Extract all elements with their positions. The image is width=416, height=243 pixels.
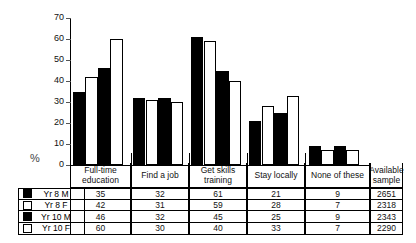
chart-figure: % 706050403020100 Yr 8 MYr 8 FYr 10 MYr …: [0, 0, 416, 243]
table-header-none-of-these: None of these: [305, 163, 370, 188]
bar-yr-10-m-2: [216, 71, 229, 166]
header-line: sample: [373, 175, 400, 185]
y-tick-mark: [66, 123, 71, 124]
y-tick-label: 70: [36, 13, 64, 22]
y-tick-label-text: 30: [38, 97, 64, 106]
bar-yr-8-f-2: [204, 41, 217, 165]
y-tick-label-text: 20: [38, 118, 64, 127]
y-tick-label: 40: [36, 76, 64, 85]
table-cell: 2343: [370, 211, 403, 223]
table-cell: 35: [70, 188, 131, 200]
y-tick-mark: [66, 39, 71, 40]
header-line: None of these: [311, 170, 364, 180]
data-table: Yr 8 MYr 8 FYr 10 MYr 10 F Full-timeeduc…: [18, 163, 403, 235]
table-cell: 46: [70, 211, 131, 223]
bar-yr-10-f-3: [287, 96, 300, 165]
table-header-stay-locally: Stay locally: [247, 163, 305, 188]
bar-yr-10-m-1: [158, 98, 171, 165]
bar-yr-10-f-1: [171, 102, 184, 165]
table-cell: 32: [131, 211, 189, 223]
table-header-find-a-job: Find a job: [131, 163, 189, 188]
bar-yr-10-f-2: [229, 81, 242, 165]
bar-yr-8-f-3: [262, 106, 275, 165]
table-cell: 9: [305, 188, 370, 200]
table-cell: 32: [131, 188, 189, 200]
y-tick-label: 60: [36, 34, 64, 43]
y-tick-label-text: 40: [38, 76, 64, 85]
legend-swatch-black: [23, 212, 32, 221]
table-header-full-time-education: Full-timeeducation: [70, 163, 131, 188]
header-line: training: [204, 175, 232, 185]
bar-yr-8-f-0: [85, 77, 98, 165]
table-cell: 28: [247, 200, 305, 212]
table-cell: 59: [189, 200, 247, 212]
header-line: Full-time: [84, 165, 117, 175]
y-tick-mark: [66, 18, 71, 19]
bar-yr-8-f-1: [146, 100, 159, 165]
y-tick-label: 50: [36, 55, 64, 64]
bar-yr-8-m-3: [249, 121, 262, 165]
y-tick-label-text: 50: [38, 55, 64, 64]
table-cell: 42: [70, 200, 131, 212]
y-tick-mark: [66, 81, 71, 82]
header-line: Stay locally: [255, 170, 298, 180]
table-cell: 7: [305, 200, 370, 212]
bar-yr-8-m-0: [73, 92, 86, 166]
table-cell: 2290: [370, 223, 403, 235]
bar-yr-8-m-2: [191, 37, 204, 165]
y-tick-mark: [66, 102, 71, 103]
table-header-available-sample: Availablesample: [370, 163, 403, 188]
table-cell: 33: [247, 223, 305, 235]
bar-yr-8-m-1: [133, 98, 146, 165]
plot-area: % 706050403020100: [0, 0, 416, 167]
y-tick-label-text: 70: [38, 13, 64, 22]
legend-swatch-black: [23, 189, 32, 198]
header-line: Find a job: [141, 170, 178, 180]
table-cell: 61: [189, 188, 247, 200]
table-cell: 9: [305, 211, 370, 223]
table-cell: 60: [70, 223, 131, 235]
table-header-get-skills-training: Get skillstraining: [189, 163, 247, 188]
y-tick-label-text: 60: [38, 34, 64, 43]
table-cell: 2318: [370, 200, 403, 212]
legend-swatch-white: [23, 224, 32, 233]
bar-yr-10-f-0: [110, 39, 123, 165]
y-tick-label: 30: [36, 97, 64, 106]
bar-yr-10-m-3: [274, 113, 287, 166]
bar-yr-10-m-0: [98, 68, 111, 165]
table-cell: 31: [131, 200, 189, 212]
table-cell: 7: [305, 223, 370, 235]
y-tick-label: 20: [36, 118, 64, 127]
table-cell: 30: [131, 223, 189, 235]
y-tick-label-text: 10: [38, 139, 64, 148]
y-tick-label: 10: [36, 139, 64, 148]
y-tick-mark: [66, 144, 71, 145]
table-cell: 40: [189, 223, 247, 235]
header-line: Get skills: [201, 165, 235, 175]
header-line: education: [82, 175, 119, 185]
header-line: Available: [369, 165, 403, 175]
y-tick-mark: [66, 60, 71, 61]
table-cell: 45: [189, 211, 247, 223]
table-cell: 21: [247, 188, 305, 200]
legend-swatch-white: [23, 201, 32, 210]
table-cell: 25: [247, 211, 305, 223]
table-cell: 2651: [370, 188, 403, 200]
